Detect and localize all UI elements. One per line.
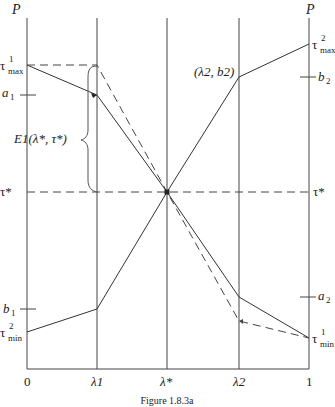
line-2-solid (27, 44, 309, 332)
label-tau-star-right: τ* (313, 184, 325, 199)
intersection-point (165, 190, 170, 195)
label-tau1-min-right: τ 1 min (312, 327, 335, 349)
svg-text:τ: τ (312, 37, 317, 52)
svg-text:1: 1 (11, 308, 16, 318)
figure-caption: Figure 1.8.3a (140, 395, 194, 406)
point-label-lambda2-b2: (λ2, b2) (194, 64, 234, 79)
diagram: P P τ 1 max a 1 τ* b 1 τ 2 min τ 2 max b… (0, 0, 335, 407)
line-1-solid (27, 65, 309, 338)
svg-text:max: max (8, 66, 24, 76)
label-tau-star-left: τ* (0, 184, 12, 199)
svg-text:τ: τ (0, 325, 5, 340)
x-tick-lambda1: λ1 (90, 374, 103, 389)
svg-text:a: a (2, 85, 9, 100)
svg-text:2: 2 (321, 33, 326, 43)
brace (81, 66, 97, 192)
label-b1: b 1 (3, 301, 16, 318)
svg-text:1: 1 (9, 54, 14, 64)
svg-text:2: 2 (326, 295, 331, 305)
x-tick-0: 0 (24, 374, 31, 389)
brace-label-E1: E1(λ*, τ*) (13, 131, 67, 146)
label-a1: a 1 (2, 85, 15, 102)
x-tick-lambda-star: λ* (159, 374, 173, 389)
svg-text:1: 1 (10, 92, 15, 102)
x-tick-1: 1 (306, 374, 313, 389)
arrow-marker-2 (239, 319, 243, 324)
label-tau1-max-left: τ 1 max (0, 54, 24, 76)
svg-text:τ: τ (0, 58, 5, 73)
svg-text:max: max (320, 45, 335, 55)
svg-text:a: a (318, 288, 325, 303)
label-a2: a 2 (318, 288, 331, 305)
x-tick-lambda2: λ2 (232, 374, 246, 389)
svg-text:τ: τ (312, 331, 317, 346)
svg-text:min: min (8, 333, 23, 343)
label-tau2-min-left: τ 2 min (0, 321, 23, 343)
label-tau2-max-right: τ 2 max (312, 33, 335, 55)
svg-text:1: 1 (321, 327, 326, 337)
svg-text:2: 2 (326, 76, 331, 86)
svg-text:b: b (3, 301, 10, 316)
svg-text:min: min (320, 339, 335, 349)
right-axis-label: P (305, 2, 315, 17)
left-axis-label: P (11, 2, 21, 17)
label-b2: b 2 (318, 69, 331, 86)
svg-text:2: 2 (9, 321, 14, 331)
svg-text:b: b (318, 69, 325, 84)
line-1-dashed (27, 65, 309, 338)
